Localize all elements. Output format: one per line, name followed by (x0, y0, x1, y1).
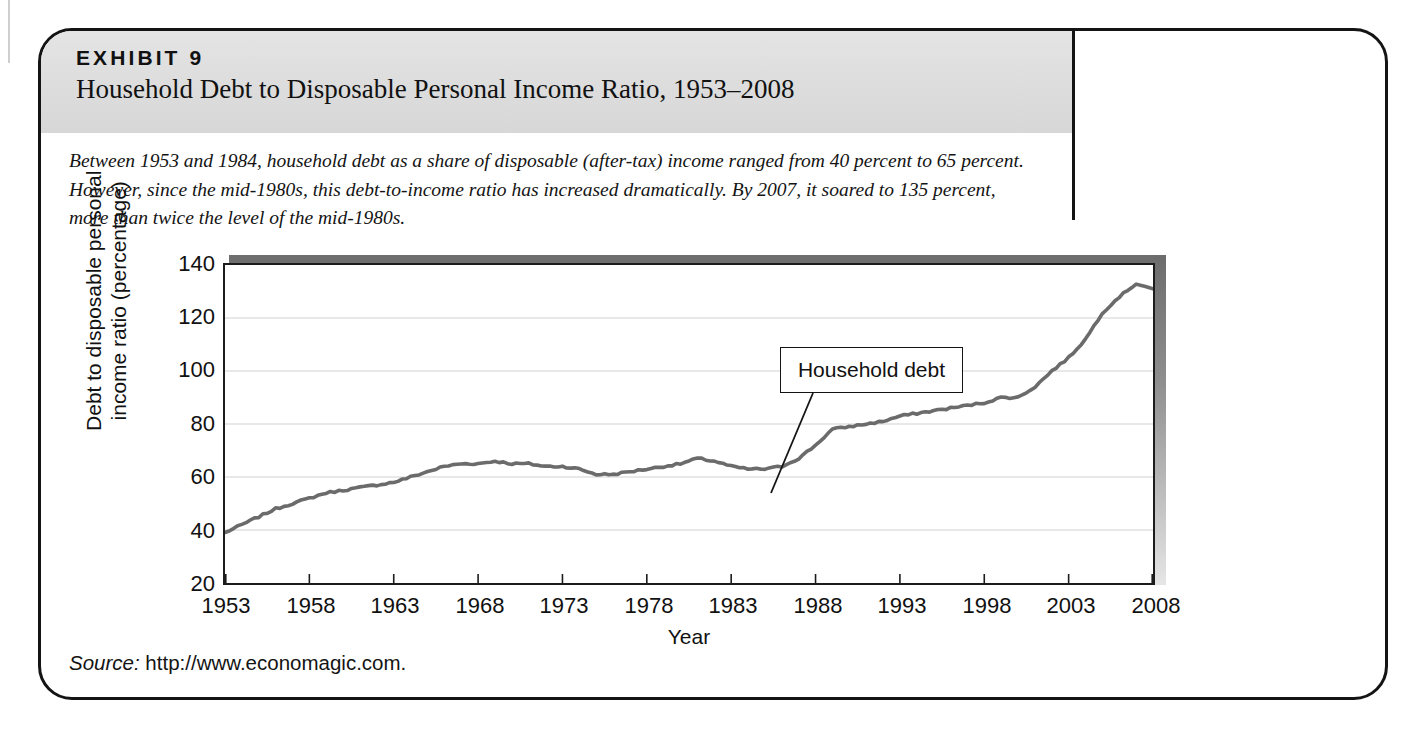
source-label: Source: (69, 651, 140, 674)
page-edge-rule (8, 0, 10, 63)
exhibit-source-line: Source: http://www.economagic.com. (69, 651, 406, 675)
source-url: http://www.economagic.com. (140, 651, 407, 674)
annotation-leader-line (41, 31, 1391, 703)
exhibit-frame: EXHIBIT 9 Household Debt to Disposable P… (38, 28, 1388, 700)
annotation-label: Household debt (798, 358, 945, 382)
figure-container: EXHIBIT 9 Household Debt to Disposable P… (41, 31, 1391, 703)
annotation-household-debt: Household debt (780, 347, 963, 393)
